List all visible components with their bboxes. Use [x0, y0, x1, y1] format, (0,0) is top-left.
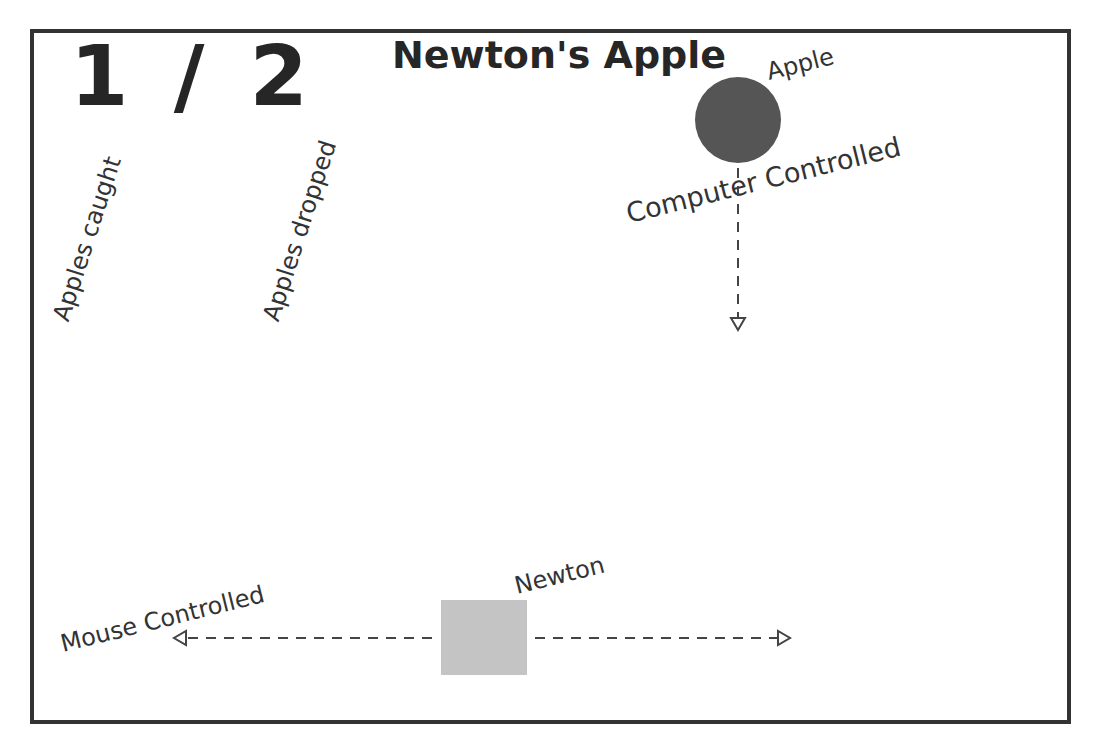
newton-right-arrow-icon: [535, 631, 790, 645]
apple-down-arrow-icon: [731, 168, 745, 330]
newton-player[interactable]: [441, 600, 527, 675]
newton-left-arrow-icon: [174, 631, 432, 645]
